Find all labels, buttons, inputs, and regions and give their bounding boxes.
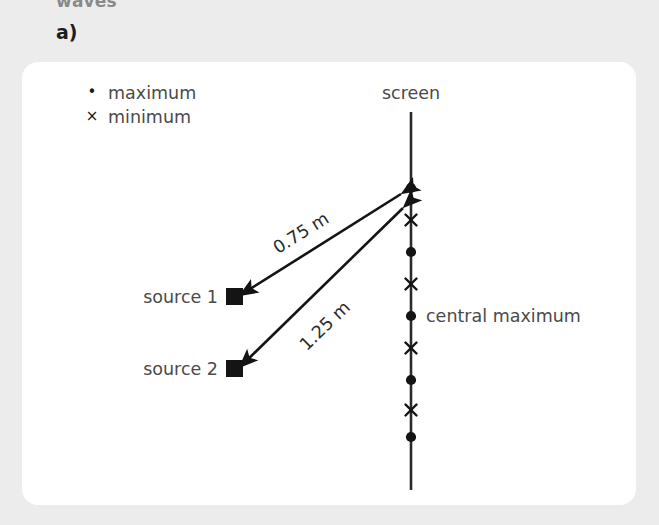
source-1: source 1 xyxy=(143,287,243,307)
central-maximum-marker xyxy=(406,311,416,321)
legend: • maximum × minimum xyxy=(86,83,196,127)
maximum-marker xyxy=(406,375,416,385)
source-2-square xyxy=(226,360,243,377)
interference-diagram: • maximum × minimum screen xyxy=(22,62,636,505)
top-cutoff-caption: waves xyxy=(56,0,117,11)
cross-mark-icon: × xyxy=(86,107,99,125)
source-2-label: source 2 xyxy=(143,359,218,379)
maximum-marker xyxy=(406,432,416,442)
source-2: source 2 xyxy=(143,359,243,379)
source-1-square xyxy=(226,288,243,305)
legend-item-maximum: • maximum xyxy=(88,83,197,103)
maximum-marker xyxy=(406,183,416,193)
legend-item-minimum: × minimum xyxy=(86,107,191,127)
panel-label: a) xyxy=(56,21,78,43)
distance-label-0-75m: 0.75 m xyxy=(269,208,332,258)
source-1-label: source 1 xyxy=(143,287,218,307)
legend-label-minimum: minimum xyxy=(108,107,191,127)
screen-label: screen xyxy=(382,83,440,103)
filled-circle-icon: • xyxy=(88,83,97,101)
central-maximum-label: central maximum xyxy=(426,306,581,326)
maximum-marker xyxy=(406,247,416,257)
legend-label-maximum: maximum xyxy=(108,83,196,103)
figure-card: • maximum × minimum screen xyxy=(22,62,636,505)
